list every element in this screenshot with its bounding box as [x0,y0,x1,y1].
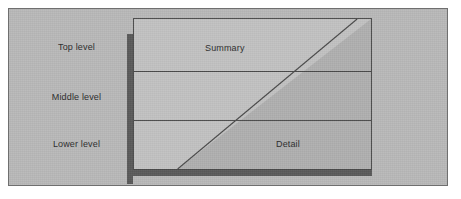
level-label-top: Top level [19,42,134,52]
caption-detail: Detail [276,139,300,149]
level-label-lower: Lower level [19,139,134,149]
level-box: Summary Detail [133,18,372,170]
summary-detail-diagonal-line [134,19,371,169]
level-label-middle: Middle level [19,92,134,102]
caption-summary: Summary [205,43,245,53]
level-label-column: Top level Middle level Lower level [19,9,134,185]
diagram-screenshot: Top level Middle level Lower level Summa… [0,0,461,199]
box-shadow-bottom [127,170,372,176]
figure-frame: Top level Middle level Lower level Summa… [8,8,448,186]
